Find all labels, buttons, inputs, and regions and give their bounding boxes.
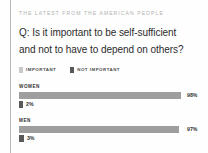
- question-line-2: and not to have to depend on others?: [19, 41, 204, 58]
- bar-fill-important: [19, 92, 181, 99]
- legend-label-important: IMPORTANT: [26, 67, 56, 73]
- bar-row-women-important: 98%: [19, 92, 204, 99]
- legend-swatch-not-important: [70, 67, 74, 73]
- group-men: MEN 97% 3%: [19, 118, 204, 142]
- bar-value-women-important: 98%: [187, 92, 197, 99]
- bar-fill-not-important: [19, 101, 23, 108]
- question-heading: Q: Is it important to be self-sufficient…: [19, 24, 204, 58]
- legend-item-not-important: NOT IMPORTANT: [70, 66, 120, 74]
- bar-value-men-not-important: 3%: [27, 135, 35, 142]
- bar-track: [19, 126, 184, 133]
- kicker-heading: THE LATEST FROM THE AMERICAN PEOPLE: [19, 10, 204, 17]
- bar-track: [19, 101, 23, 108]
- legend-swatch-important: [19, 67, 23, 73]
- group-title-men: MEN: [19, 118, 204, 124]
- legend-item-important: IMPORTANT: [19, 66, 56, 74]
- chart-legend: IMPORTANT NOT IMPORTANT: [19, 66, 204, 74]
- bar-row-men-important: 97%: [19, 126, 204, 133]
- question-line-1: Q: Is it important to be self-sufficient: [19, 24, 204, 41]
- bar-fill-not-important: [19, 135, 24, 142]
- bar-value-men-important: 97%: [187, 126, 197, 133]
- bar-row-men-not-important: 3%: [19, 135, 204, 142]
- infographic-card: THE LATEST FROM THE AMERICAN PEOPLE Q: I…: [0, 0, 208, 153]
- bar-track: [19, 92, 184, 99]
- card-content: THE LATEST FROM THE AMERICAN PEOPLE Q: I…: [19, 0, 204, 144]
- group-women: WOMEN 98% 2%: [19, 84, 204, 108]
- legend-label-not-important: NOT IMPORTANT: [77, 67, 120, 73]
- group-title-women: WOMEN: [19, 84, 204, 90]
- bar-track: [19, 135, 24, 142]
- bar-row-women-not-important: 2%: [19, 101, 204, 108]
- left-vertical-rule: [10, 0, 11, 153]
- bar-fill-important: [19, 126, 179, 133]
- bar-value-women-not-important: 2%: [26, 101, 34, 108]
